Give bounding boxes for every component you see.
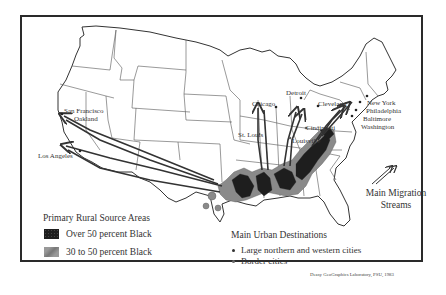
city-label-washington: Washington — [361, 123, 394, 131]
legend-destinations-title: Main Urban Destinations — [231, 230, 327, 240]
city-label-louisville: Louisville — [292, 137, 320, 145]
city-label-st-louis: St. Louis — [238, 131, 263, 139]
filled-dot-icon — [232, 249, 235, 252]
state-lines — [60, 30, 378, 198]
city-label-baltimore: Baltimore — [363, 115, 391, 123]
legend-item-border-cities: Border cities — [232, 256, 287, 266]
legend-item-large-cities: Large northern and western cities — [232, 245, 361, 255]
city-label-cleveland: Cleveland — [318, 100, 346, 108]
open-dot-icon — [232, 260, 235, 263]
legend-item-over-50: Over 50 percent Black — [44, 229, 152, 239]
city-label-chicago: Chicago — [252, 100, 275, 108]
legend-label: 30 to 50 percent Black — [66, 247, 152, 257]
streams-label-line2: Streams — [356, 199, 436, 211]
city-label-san-francisco: San Francisco — [64, 107, 103, 115]
legend-streams-label: Main Migration Streams — [356, 187, 436, 211]
city-label-cincinnati: Cincinnati — [306, 124, 335, 132]
legend-source-title: Primary Rural Source Areas — [43, 213, 150, 223]
city-label-new-york: New York — [367, 99, 395, 107]
city-label-philadelphia: Philadelphia — [366, 107, 401, 115]
legend-label: Large northern and western cities — [241, 245, 361, 255]
swatch-over-50-icon — [44, 229, 59, 239]
credit-line: Deasy GeoGraphics Laboratory, PSU, 1983 — [310, 272, 394, 277]
city-label-oakland: Oakland — [74, 115, 98, 123]
legend-stream-arrow-icon — [372, 168, 394, 184]
city-label-los-angeles: Los Angeles — [38, 152, 73, 160]
legend-label: Over 50 percent Black — [66, 229, 152, 239]
city-label-detroit: Detroit — [286, 89, 306, 97]
legend-item-30-50: 30 to 50 percent Black — [44, 247, 152, 257]
swatch-30-50-icon — [44, 247, 59, 257]
streams-label-line1: Main Migration — [356, 187, 436, 199]
legend-label: Border cities — [241, 256, 287, 266]
